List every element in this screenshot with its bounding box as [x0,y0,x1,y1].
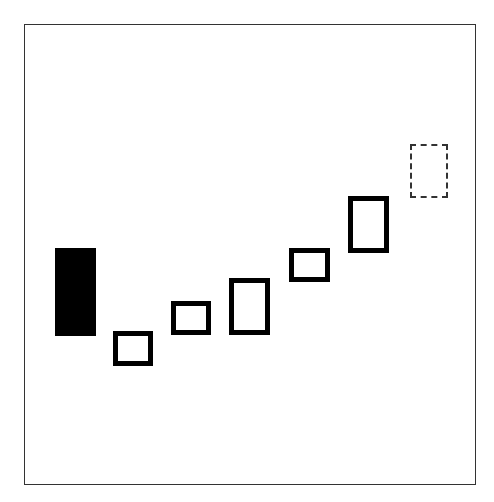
candle-bullish-5 [289,248,330,282]
candle-bullish-4 [229,278,270,335]
candle-bullish-2 [113,331,153,366]
candle-bearish-1 [55,248,96,336]
candle-projected-7 [410,144,448,198]
candle-bullish-3 [171,301,211,335]
candle-bullish-6 [348,196,389,253]
